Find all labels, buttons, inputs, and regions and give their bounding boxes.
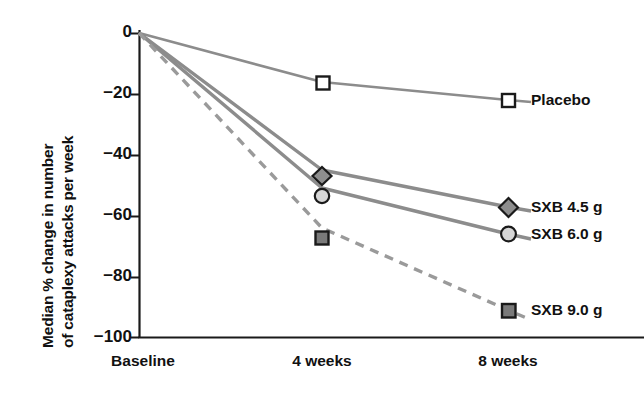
line-placebo [139, 33, 531, 102]
marker-placebo-8-weeks [502, 94, 515, 107]
figure-container: Median % change in number of cataplexy a… [0, 0, 644, 405]
marker-sxb-4-5-8-weeks [499, 198, 518, 217]
line-sxb-6-0 [139, 33, 531, 239]
marker-sxb-6-0-8-weeks [501, 227, 516, 242]
series-lines [139, 33, 531, 320]
marker-sxb-9-0-8-weeks [502, 304, 516, 318]
line-sxb-4-5 [139, 33, 531, 211]
markers-8-weeks [499, 94, 518, 318]
marker-sxb-9-0-4-weeks [316, 232, 329, 245]
marker-sxb-6-0-4-weeks [315, 189, 329, 203]
marker-placebo-4-weeks [317, 77, 330, 90]
chart-svg [0, 0, 644, 405]
